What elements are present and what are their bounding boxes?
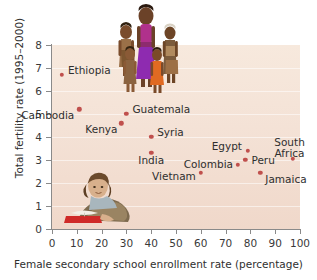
point-label-peru: Peru bbox=[251, 155, 274, 166]
y-tick-label-8: 8 bbox=[22, 40, 42, 51]
point-label-vietnam: Vietnam bbox=[152, 171, 196, 182]
point-label-syria: Syria bbox=[157, 127, 184, 138]
y-tick-label-6: 6 bbox=[22, 86, 42, 97]
x-tick-0 bbox=[52, 229, 53, 234]
x-tick-label-60: 60 bbox=[188, 238, 214, 249]
x-tick-100 bbox=[300, 229, 301, 234]
point-label-india: India bbox=[129, 155, 173, 166]
point-label-guatemala: Guatemala bbox=[132, 104, 190, 115]
x-tick-label-70: 70 bbox=[213, 238, 239, 249]
y-tick-1 bbox=[46, 206, 52, 207]
y-axis-title: Total fertility rate (1995–2000) bbox=[13, 5, 25, 191]
y-tick-2 bbox=[46, 183, 52, 184]
x-tick-label-0: 0 bbox=[39, 238, 65, 249]
point-label-jamaica: Jamaica bbox=[265, 174, 306, 185]
scatter-chart-figure: 0123456780102030405060708090100 Total fe… bbox=[0, 0, 317, 280]
y-tick-7 bbox=[46, 68, 52, 69]
x-tick-40 bbox=[151, 229, 152, 234]
x-tick-label-40: 40 bbox=[138, 238, 164, 249]
y-tick-6 bbox=[46, 91, 52, 92]
y-tick-label-4: 4 bbox=[22, 132, 42, 143]
point-label-kenya: Kenya bbox=[85, 124, 117, 135]
x-tick-label-20: 20 bbox=[89, 238, 115, 249]
y-tick-label-0: 0 bbox=[22, 224, 42, 235]
y-tick-label-3: 3 bbox=[22, 155, 42, 166]
x-tick-60 bbox=[201, 229, 202, 234]
point-label-cambodia: Cambodia bbox=[21, 110, 74, 121]
y-tick-8 bbox=[46, 45, 52, 46]
x-tick-label-90: 90 bbox=[262, 238, 288, 249]
gridline-y-1 bbox=[52, 206, 300, 207]
y-tick-3 bbox=[46, 160, 52, 161]
x-tick-label-10: 10 bbox=[64, 238, 90, 249]
x-tick-80 bbox=[250, 229, 251, 234]
y-tick-4 bbox=[46, 137, 52, 138]
y-tick-label-2: 2 bbox=[22, 178, 42, 189]
x-tick-label-30: 30 bbox=[113, 238, 139, 249]
x-tick-70 bbox=[226, 229, 227, 234]
point-label-colombia: Colombia bbox=[184, 159, 233, 170]
y-tick-label-7: 7 bbox=[22, 63, 42, 74]
x-tick-30 bbox=[126, 229, 127, 234]
x-axis-title: Female secondary school enrollment rate … bbox=[0, 258, 317, 270]
y-tick-label-1: 1 bbox=[22, 201, 42, 212]
gridline-y-2 bbox=[52, 183, 300, 184]
x-tick-label-100: 100 bbox=[287, 238, 313, 249]
gridline-y-6 bbox=[52, 91, 300, 92]
x-tick-10 bbox=[77, 229, 78, 234]
point-label-ethiopia: Ethiopia bbox=[68, 65, 111, 76]
x-tick-label-50: 50 bbox=[163, 238, 189, 249]
x-tick-90 bbox=[275, 229, 276, 234]
x-tick-50 bbox=[176, 229, 177, 234]
x-tick-20 bbox=[102, 229, 103, 234]
x-tick-label-80: 80 bbox=[237, 238, 263, 249]
point-label-egypt: Egypt bbox=[212, 141, 242, 152]
